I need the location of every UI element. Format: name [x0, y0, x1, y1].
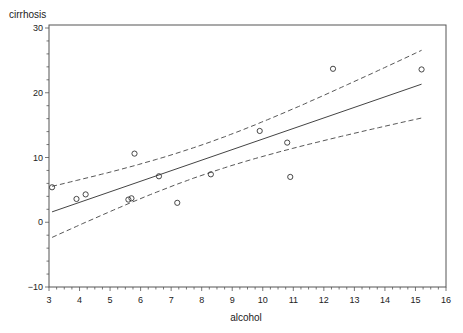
data-point-marker [257, 128, 262, 133]
x-tick-label: 9 [230, 295, 235, 305]
x-tick-label: 4 [77, 295, 82, 305]
x-axis-title: alcohol [230, 312, 262, 323]
confidence-bands [52, 50, 422, 237]
data-point-marker [129, 196, 134, 201]
y-tick-label: −10 [28, 282, 43, 292]
y-tick-label: 10 [33, 153, 43, 163]
y-tick-label: 30 [33, 23, 43, 33]
x-tick-label: 15 [410, 295, 420, 305]
x-tick-label: 5 [108, 295, 113, 305]
data-point-marker [126, 197, 131, 202]
data-point-marker [132, 151, 137, 156]
plot-frame [49, 25, 446, 287]
x-tick-label: 12 [319, 295, 329, 305]
data-point-marker [49, 185, 54, 190]
plot-border [49, 25, 446, 287]
x-tick-label: 10 [258, 295, 268, 305]
data-point-marker [330, 66, 335, 71]
scatter-plot: 345678910111213141516 −100102030 alcohol… [0, 0, 463, 333]
x-axis: 345678910111213141516 [46, 287, 451, 305]
y-tick-label: 0 [38, 217, 43, 227]
x-tick-label: 16 [441, 295, 451, 305]
x-tick-label: 14 [380, 295, 390, 305]
upper-confidence-line [52, 50, 422, 186]
data-point-marker [74, 196, 79, 201]
data-point-marker [419, 67, 424, 72]
x-tick-label: 7 [169, 295, 174, 305]
data-point-marker [285, 140, 290, 145]
data-point-marker [83, 192, 88, 197]
y-tick-label: 20 [33, 88, 43, 98]
x-tick-label: 13 [349, 295, 359, 305]
data-point-marker [288, 174, 293, 179]
lower-confidence-line [52, 118, 422, 237]
x-tick-label: 6 [138, 295, 143, 305]
data-point-marker [175, 200, 180, 205]
y-axis-title: cirrhosis [9, 9, 46, 20]
regression-line [52, 84, 422, 212]
x-tick-label: 8 [199, 295, 204, 305]
x-tick-label: 3 [46, 295, 51, 305]
data-points [49, 66, 424, 205]
x-tick-label: 11 [289, 295, 298, 305]
y-axis: −100102030 [28, 23, 49, 292]
fit-line [52, 84, 422, 212]
